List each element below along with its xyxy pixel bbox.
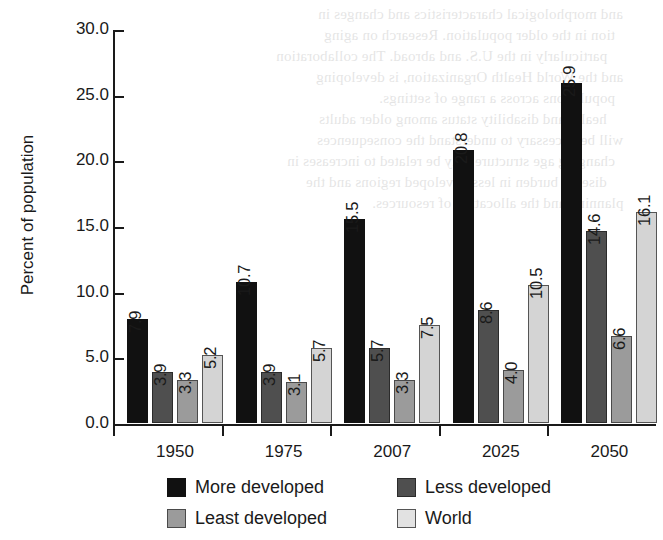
bar-value-label: 5.2 (201, 346, 220, 368)
bar-value-label: 14.6 (585, 214, 604, 245)
legend-swatch-icon (167, 478, 186, 497)
y-tick-label: 5.0 (49, 347, 109, 367)
bar-2050-world (636, 212, 657, 423)
bar-2050-more-developed (561, 83, 582, 423)
bar-value-label: 15.5 (343, 202, 362, 233)
legend-swatch-icon (397, 478, 416, 497)
x-tick-2050 (547, 426, 549, 436)
y-tick-25.0: 25.0 (115, 96, 124, 98)
legend-entry-least-developed: Least developed (167, 508, 397, 529)
x-axis-line (113, 424, 656, 426)
bar-value-label: 6.6 (610, 328, 629, 350)
y-tick-label: 15.0 (49, 216, 109, 236)
bar-chart-figure: Percent of population 0.05.010.015.020.0… (0, 0, 663, 540)
y-tick-label: 0.0 (49, 413, 109, 433)
y-tick-label: 10.0 (49, 282, 109, 302)
bar-value-label: 10.5 (527, 268, 546, 299)
bar-value-label: 7.9 (126, 311, 145, 333)
bar-value-label: 5.7 (368, 340, 387, 362)
legend-entry-world: World (397, 508, 587, 529)
legend-label: More developed (195, 477, 324, 498)
bar-2025-less-developed (478, 310, 499, 423)
bar-value-label: 8.6 (477, 302, 496, 324)
y-axis-title: Percent of population (18, 105, 38, 325)
x-tick-1975 (222, 426, 224, 436)
y-tick-label: 30.0 (49, 19, 109, 39)
legend-label: Less developed (425, 477, 551, 498)
bar-value-label: 25.9 (560, 66, 579, 97)
bar-value-label: 3.1 (285, 374, 304, 396)
x-axis-label-1950: 1950 (130, 442, 220, 462)
bar-2025-more-developed (453, 150, 474, 423)
y-tick-15.0: 15.0 (115, 227, 124, 229)
bar-value-label: 16.1 (635, 194, 654, 225)
y-tick-5.0: 5.0 (115, 358, 124, 360)
y-tick-label: 25.0 (49, 85, 109, 105)
bar-value-label: 20.8 (452, 132, 471, 163)
bar-1975-more-developed (236, 282, 257, 423)
x-tick-2025 (439, 426, 441, 436)
legend-entry-less-developed: Less developed (397, 477, 587, 498)
y-tick-30.0: 30.0 (115, 30, 124, 32)
bar-value-label: 7.5 (418, 316, 437, 338)
x-axis-label-2050: 2050 (564, 442, 654, 462)
y-tick-10.0: 10.0 (115, 293, 124, 295)
bar-value-label: 3.3 (393, 371, 412, 393)
x-axis-label-2007: 2007 (347, 442, 437, 462)
legend-entry-more-developed: More developed (167, 477, 397, 498)
legend-label: World (425, 508, 472, 529)
y-tick-20.0: 20.0 (115, 161, 124, 163)
bar-1950-more-developed (127, 319, 148, 423)
bar-value-label: 3.3 (176, 371, 195, 393)
legend-label: Least developed (195, 508, 327, 529)
legend-swatch-icon (397, 509, 416, 528)
bar-2025-world (528, 285, 549, 423)
bar-value-label: 3.9 (151, 363, 170, 385)
plot-area: 0.05.010.015.020.025.030.0 7.93.93.35.21… (113, 30, 656, 425)
x-tick-2007 (330, 426, 332, 436)
x-axis-label-1975: 1975 (239, 442, 329, 462)
legend-swatch-icon (167, 509, 186, 528)
chart-legend: More developedLess developedLeast develo… (167, 472, 587, 534)
bar-value-label: 3.9 (260, 363, 279, 385)
bar-value-label: 4.0 (502, 362, 521, 384)
y-tick-label: 20.0 (49, 150, 109, 170)
bar-2007-more-developed (344, 219, 365, 423)
bar-2050-less-developed (586, 231, 607, 423)
bar-value-label: 10.7 (235, 265, 254, 296)
bar-value-label: 5.7 (310, 340, 329, 362)
bar-2007-world (419, 325, 440, 424)
y-tick-0.0: 0.0 (115, 424, 124, 426)
x-tick-1950 (113, 426, 115, 436)
x-axis-label-2025: 2025 (456, 442, 546, 462)
